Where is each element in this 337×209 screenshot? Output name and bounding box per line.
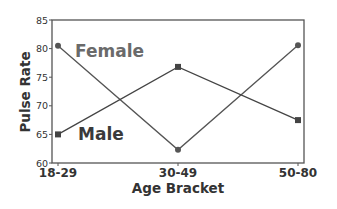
- y-tick-label: 85: [36, 15, 48, 26]
- x-tick-label: 18-29: [39, 166, 77, 180]
- y-tick-label: 70: [36, 100, 48, 111]
- data-point-female: [55, 43, 61, 49]
- x-tick-label: 30-49: [159, 166, 197, 180]
- data-point-male: [295, 117, 301, 123]
- y-axis: 606570758085: [36, 15, 52, 169]
- y-tick-label: 75: [36, 72, 48, 83]
- x-axis: 18-2930-4950-80: [39, 163, 317, 180]
- y-axis-title: Pulse Rate: [17, 51, 33, 132]
- data-point-male: [55, 131, 61, 137]
- series-label-male: Male: [78, 124, 124, 144]
- line-chart: 606570758085 18-2930-4950-80 Pulse Rate …: [0, 0, 337, 209]
- x-axis-title: Age Bracket: [132, 180, 225, 196]
- x-tick-label: 50-80: [279, 166, 317, 180]
- data-point-male: [175, 64, 181, 70]
- series-label-female: Female: [75, 41, 144, 61]
- y-tick-label: 65: [36, 129, 48, 140]
- data-point-female: [175, 147, 181, 153]
- y-tick-label: 80: [36, 43, 48, 54]
- data-point-female: [295, 42, 301, 48]
